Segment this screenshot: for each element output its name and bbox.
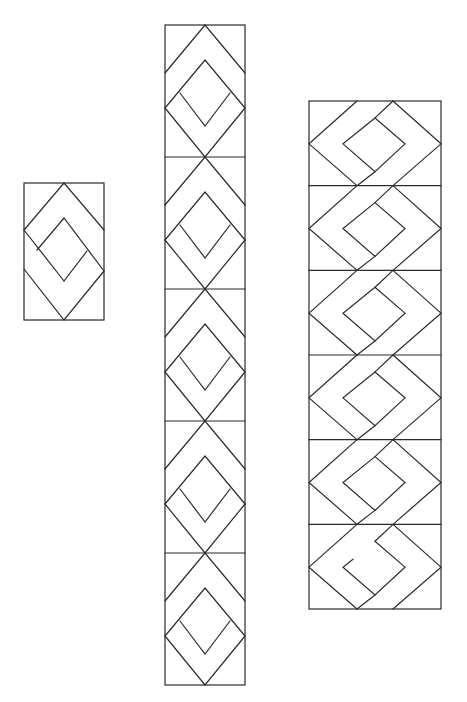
motif-line <box>343 203 405 257</box>
motif-line <box>357 595 375 609</box>
motif-line <box>37 218 104 271</box>
motif-line <box>375 186 393 203</box>
pattern-cell <box>165 553 245 685</box>
motif-line <box>357 341 375 355</box>
motif-line <box>165 456 245 504</box>
pattern-cell <box>309 270 441 355</box>
motif-line <box>24 269 104 320</box>
motif-line <box>375 101 393 118</box>
motif-line <box>165 108 245 157</box>
motif-line <box>309 440 357 525</box>
pattern-cell <box>165 421 245 553</box>
motif-line <box>165 240 245 289</box>
pattern-cell <box>165 289 245 421</box>
motif-line <box>357 510 375 524</box>
motif-line <box>343 457 405 511</box>
motif-line <box>165 289 245 337</box>
motif-line <box>375 440 393 457</box>
motif-line <box>309 355 357 440</box>
motif-line <box>180 489 230 522</box>
motif-line <box>24 230 64 281</box>
motif-line <box>343 541 405 595</box>
motif-line <box>393 355 441 440</box>
motif-line <box>180 93 230 126</box>
motif-line <box>309 524 357 609</box>
motif-line <box>24 183 104 230</box>
motif-line <box>393 440 441 525</box>
motif-line <box>357 426 375 440</box>
motif-line <box>343 118 405 172</box>
motif-line <box>375 355 393 372</box>
motif-line <box>343 372 405 426</box>
pattern-canvas <box>0 0 467 702</box>
motif-line <box>180 357 230 390</box>
figure-vertical-strip-right <box>309 101 441 609</box>
motif-line <box>165 504 245 553</box>
pattern-cell <box>24 183 104 320</box>
motif-line <box>165 553 245 601</box>
pattern-cell <box>165 25 245 157</box>
figure-vertical-strip-middle <box>165 25 245 685</box>
motif-line <box>357 172 375 186</box>
figure-single-block <box>24 183 104 320</box>
pattern-cell <box>309 355 441 440</box>
motif-line <box>165 60 245 108</box>
motif-line <box>165 636 245 685</box>
motif-line <box>165 157 245 205</box>
motif-line <box>180 621 230 654</box>
motif-line <box>393 524 441 609</box>
motif-line <box>165 588 245 636</box>
pattern-cell <box>309 101 441 186</box>
pattern-cell <box>309 440 441 525</box>
figure-frame <box>24 183 104 320</box>
motif-line <box>357 256 375 270</box>
motif-line <box>393 101 441 186</box>
motif-line <box>309 270 357 355</box>
motif-line <box>165 192 245 240</box>
pattern-cell <box>309 186 441 271</box>
motif-line <box>393 186 441 271</box>
motif-line <box>309 101 357 186</box>
motif-line <box>309 186 357 271</box>
pattern-cell <box>309 524 441 609</box>
pattern-cell <box>165 157 245 289</box>
motif-line <box>165 372 245 421</box>
motif-line <box>375 524 393 541</box>
motif-line <box>64 251 87 281</box>
motif-line <box>165 25 245 73</box>
motif-line <box>375 270 393 287</box>
motif-line <box>180 225 230 258</box>
motif-line <box>165 324 245 372</box>
motif-line <box>165 421 245 469</box>
motif-line <box>393 270 441 355</box>
motif-line <box>343 287 405 341</box>
